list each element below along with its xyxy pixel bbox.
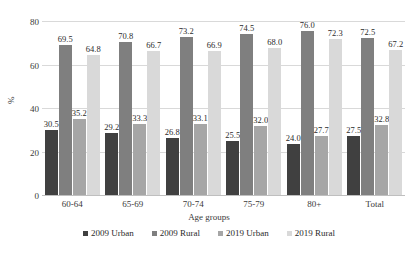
bar-group: 24.076.027.772.3 (284, 22, 345, 196)
bar-2009-rural[interactable]: 73.2 (180, 22, 193, 196)
bar-2019-urban[interactable]: 33.3 (133, 22, 146, 196)
bar-value-label: 33.1 (193, 114, 208, 123)
legend-swatch-icon (287, 231, 292, 236)
bar-rect[interactable] (194, 124, 207, 196)
bar-rect[interactable] (268, 48, 281, 196)
legend-item[interactable]: 2019 Urban (218, 228, 269, 238)
legend-item[interactable]: 2019 Rural (287, 228, 335, 238)
bar-2019-rural[interactable]: 68.0 (268, 22, 281, 196)
bar-2009-urban[interactable]: 29.2 (105, 22, 118, 196)
bar-2009-rural[interactable]: 69.5 (59, 22, 72, 196)
bar-rect[interactable] (45, 130, 58, 196)
bar-2019-urban[interactable]: 33.1 (194, 22, 207, 196)
x-tick-label: 80+ (284, 199, 345, 209)
bar-2019-rural[interactable]: 66.9 (208, 22, 221, 196)
x-tick-label: 70-74 (163, 199, 224, 209)
bar-2019-rural[interactable]: 67.2 (389, 22, 402, 196)
bar-value-label: 68.0 (267, 38, 282, 47)
bar-2009-rural[interactable]: 72.5 (361, 22, 374, 196)
bar-2019-urban[interactable]: 32.0 (254, 22, 267, 196)
bar-2009-rural[interactable]: 76.0 (301, 22, 314, 196)
bar-2009-urban[interactable]: 30.5 (45, 22, 58, 196)
bar-2009-urban[interactable]: 25.5 (226, 22, 239, 196)
bar-rect[interactable] (119, 42, 132, 196)
bar-chart: % 020406080 30.569.535.264.829.270.833.3… (0, 0, 418, 257)
bar-rect[interactable] (133, 124, 146, 196)
y-tick-label: 80 (9, 18, 39, 27)
y-axis-title: % (6, 97, 16, 105)
bar-rect[interactable] (254, 126, 267, 196)
bar-2009-rural[interactable]: 70.8 (119, 22, 132, 196)
bar-rect[interactable] (389, 50, 402, 196)
x-axis-ticks: 60-6465-6970-7475-7980+Total (42, 199, 405, 209)
bar-rect[interactable] (240, 34, 253, 196)
bar-value-label: 24.0 (286, 134, 301, 143)
bar-value-label: 74.5 (239, 24, 254, 33)
bar-2009-urban[interactable]: 27.5 (347, 22, 360, 196)
legend-label: 2019 Urban (226, 228, 269, 238)
bar-rect[interactable] (105, 133, 118, 197)
bar-rect[interactable] (73, 119, 86, 196)
bar-2019-rural[interactable]: 64.8 (87, 22, 100, 196)
bar-rect[interactable] (87, 55, 100, 196)
bar-value-label: 33.3 (132, 114, 147, 123)
y-tick-label: 0 (9, 192, 39, 201)
bar-value-label: 70.8 (118, 32, 133, 41)
bar-value-label: 66.7 (146, 41, 161, 50)
bar-value-label: 30.5 (44, 120, 59, 129)
bar-value-label: 66.9 (207, 41, 222, 50)
bar-value-label: 67.2 (388, 40, 403, 49)
y-tick-label: 20 (9, 148, 39, 157)
bar-rect[interactable] (226, 141, 239, 196)
bar-rect[interactable] (208, 51, 221, 197)
bar-rect[interactable] (180, 37, 193, 196)
plot-area: 30.569.535.264.829.270.833.366.726.873.2… (42, 22, 405, 196)
bar-value-label: 27.7 (314, 126, 329, 135)
legend-swatch-icon (83, 231, 88, 236)
bar-2019-rural[interactable]: 66.7 (147, 22, 160, 196)
legend-swatch-icon (152, 231, 157, 236)
bar-rect[interactable] (361, 38, 374, 196)
legend-item[interactable]: 2009 Rural (152, 228, 200, 238)
legend: 2009 Urban2009 Rural2019 Urban2019 Rural (0, 228, 418, 238)
x-tick-label: 60-64 (42, 199, 103, 209)
bar-rect[interactable] (147, 51, 160, 196)
legend-label: 2009 Urban (91, 228, 134, 238)
legend-label: 2019 Rural (295, 228, 335, 238)
bar-value-label: 35.2 (72, 109, 87, 118)
legend-label: 2009 Rural (160, 228, 200, 238)
bar-2019-rural[interactable]: 72.3 (329, 22, 342, 196)
bar-rect[interactable] (59, 45, 72, 196)
x-tick-label: 65-69 (103, 199, 164, 209)
legend-swatch-icon (218, 231, 223, 236)
legend-item[interactable]: 2009 Urban (83, 228, 134, 238)
x-tick-label: Total (345, 199, 406, 209)
bar-rect[interactable] (347, 136, 360, 196)
x-axis-title: Age groups (0, 212, 418, 222)
bar-rect[interactable] (329, 39, 342, 196)
bar-2009-urban[interactable]: 24.0 (287, 22, 300, 196)
x-axis-line (42, 195, 405, 196)
bar-group: 26.873.233.166.9 (163, 22, 224, 196)
bar-value-label: 73.2 (179, 27, 194, 36)
bar-value-label: 26.8 (165, 128, 180, 137)
bar-rect[interactable] (301, 31, 314, 196)
bar-2009-urban[interactable]: 26.8 (166, 22, 179, 196)
bar-rect[interactable] (315, 136, 328, 196)
bar-rect[interactable] (375, 125, 388, 196)
bar-value-label: 29.2 (104, 123, 119, 132)
bar-value-label: 72.3 (328, 29, 343, 38)
bar-rect[interactable] (166, 138, 179, 196)
bar-value-label: 25.5 (225, 131, 240, 140)
bar-group: 30.569.535.264.8 (42, 22, 103, 196)
bar-group: 25.574.532.068.0 (224, 22, 285, 196)
bar-rect[interactable] (287, 144, 300, 196)
y-tick-label: 60 (9, 61, 39, 70)
bar-2019-urban[interactable]: 27.7 (315, 22, 328, 196)
bar-2019-urban[interactable]: 32.8 (375, 22, 388, 196)
bar-2009-rural[interactable]: 74.5 (240, 22, 253, 196)
bar-value-label: 64.8 (86, 45, 101, 54)
bar-value-label: 72.5 (360, 28, 375, 37)
bar-2019-urban[interactable]: 35.2 (73, 22, 86, 196)
bar-groups: 30.569.535.264.829.270.833.366.726.873.2… (42, 22, 405, 196)
